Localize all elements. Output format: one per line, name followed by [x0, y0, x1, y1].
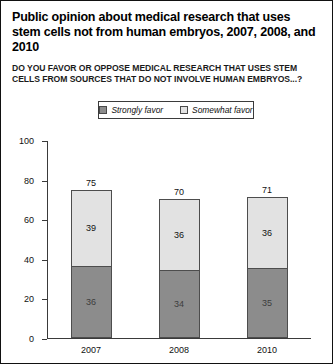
page-title: Public opinion about medical research th…: [12, 10, 317, 55]
bar-segment[interactable]: 36: [71, 267, 112, 338]
y-axis-tick-label: 0: [29, 334, 34, 344]
bar-segment[interactable]: 36: [247, 197, 288, 268]
y-axis-tick: 60: [42, 220, 47, 221]
bar-segment-value: 34: [174, 299, 184, 309]
y-axis-tick: 40: [42, 260, 47, 261]
y-axis-tick: 0: [42, 339, 47, 340]
bar-segment-value: 36: [86, 297, 96, 307]
x-axis-category-label: 2007: [47, 345, 135, 355]
bar-segment-value: 36: [262, 228, 272, 238]
y-axis-tick-label: 20: [24, 294, 34, 304]
chart-legend: Strongly favor Somewhat favor: [98, 101, 254, 119]
bar-stack[interactable]: 3635: [247, 197, 288, 338]
title-block: Public opinion about medical research th…: [12, 10, 317, 85]
bar-segment-value: 36: [174, 230, 184, 240]
y-axis-tick: 80: [42, 181, 47, 182]
bar-segment-value: 39: [86, 223, 96, 233]
bar-segment-value: 35: [262, 298, 272, 308]
chart-subtitle: DO YOU FAVOR OR OPPOSE MEDICAL RESEARCH …: [12, 55, 317, 85]
y-axis-tick-label: 80: [24, 176, 34, 186]
legend-label: Somewhat favor: [192, 105, 253, 115]
bar-stack[interactable]: 3634: [159, 199, 200, 338]
legend-label: Strongly favor: [111, 105, 163, 115]
legend-swatch-icon: [180, 106, 188, 114]
y-axis-tick: 100: [42, 141, 47, 142]
legend-item-somewhat-favor: Somewhat favor: [180, 105, 253, 115]
bar-segment[interactable]: 36: [159, 199, 200, 270]
y-axis-tick-label: 100: [19, 136, 34, 146]
y-axis-tick-label: 40: [24, 255, 34, 265]
bar-segment[interactable]: 34: [159, 271, 200, 338]
bar-total-label: 75: [71, 178, 112, 188]
legend-swatch-icon: [99, 106, 107, 114]
plot-area: 020406080100 200775393620087036342010713…: [47, 141, 311, 339]
y-axis-tick-label: 60: [24, 215, 34, 225]
bar-segment[interactable]: 39: [71, 190, 112, 267]
bar-group[interactable]: 713635: [247, 167, 288, 338]
bar-total-label: 71: [247, 185, 288, 195]
x-axis-category-label: 2010: [223, 345, 311, 355]
bar-total-label: 70: [159, 187, 200, 197]
bar-group[interactable]: 753936: [71, 160, 112, 339]
x-axis-category-label: 2008: [135, 345, 223, 355]
y-axis-tick: 20: [42, 299, 47, 300]
bar-stack[interactable]: 3936: [71, 190, 112, 339]
bar-group[interactable]: 703634: [159, 169, 200, 338]
legend-item-strongly-favor: Strongly favor: [99, 105, 163, 115]
chart-figure: Public opinion about medical research th…: [0, 0, 333, 364]
bar-segment[interactable]: 35: [247, 269, 288, 338]
y-axis-line: [47, 141, 48, 339]
